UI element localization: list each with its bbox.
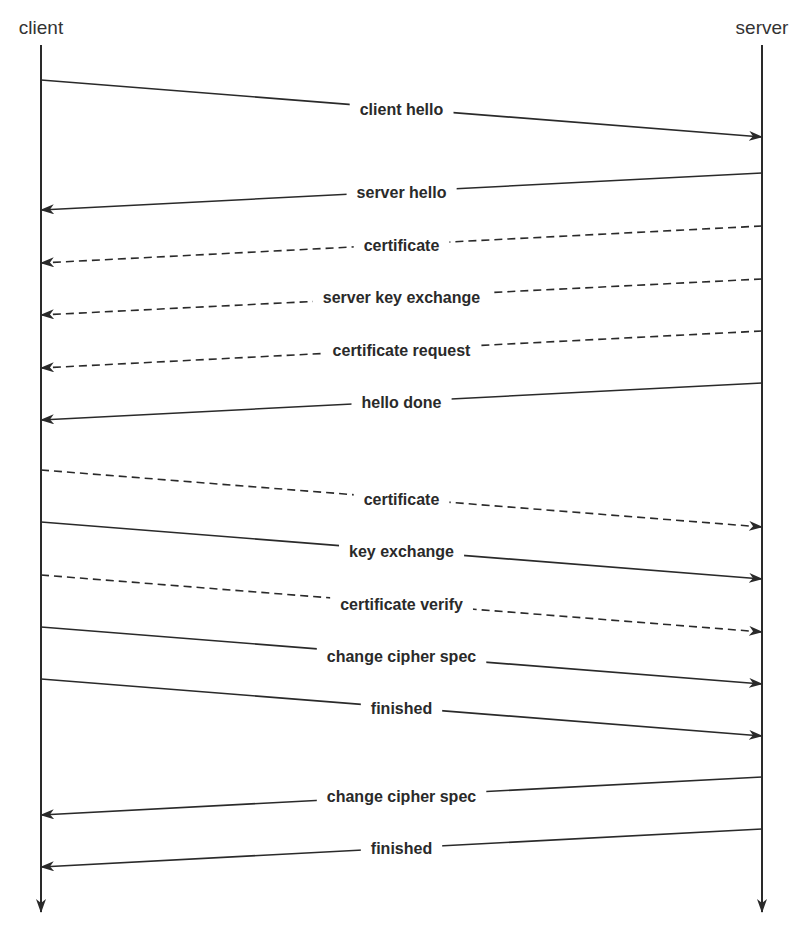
message-certificate: certificate — [41, 470, 762, 527]
message-server-hello: server hello — [41, 173, 762, 210]
message-client-hello: client hello — [41, 80, 762, 137]
message-server-key-exchange: server key exchange — [41, 279, 762, 315]
message-certificate-verify: certificate verify — [41, 575, 762, 632]
message-label: change cipher spec — [327, 648, 476, 665]
message-label: certificate — [364, 237, 440, 254]
message-certificate: certificate — [41, 226, 762, 263]
message-label: key exchange — [349, 543, 454, 560]
sequence-diagram: client server client helloserver helloce… — [0, 0, 798, 936]
message-label: finished — [371, 700, 432, 717]
message-label: hello done — [362, 394, 442, 411]
message-change-cipher-spec: change cipher spec — [41, 627, 762, 684]
message-label: finished — [371, 840, 432, 857]
message-change-cipher-spec: change cipher spec — [41, 777, 762, 815]
message-label: client hello — [360, 101, 444, 118]
message-certificate-request: certificate request — [41, 331, 762, 368]
message-label: certificate — [364, 491, 440, 508]
message-label: server hello — [357, 184, 447, 201]
message-hello-done: hello done — [41, 383, 762, 420]
message-label: change cipher spec — [327, 788, 476, 805]
messages-group: client helloserver hellocertificateserve… — [41, 80, 762, 867]
message-label: certificate request — [333, 342, 472, 359]
message-label: certificate verify — [340, 596, 463, 613]
message-finished: finished — [41, 829, 762, 867]
message-key-exchange: key exchange — [41, 522, 762, 579]
server-lifeline-label: server — [736, 17, 789, 38]
message-finished: finished — [41, 679, 762, 736]
client-lifeline-label: client — [19, 17, 64, 38]
message-label: server key exchange — [323, 289, 481, 306]
